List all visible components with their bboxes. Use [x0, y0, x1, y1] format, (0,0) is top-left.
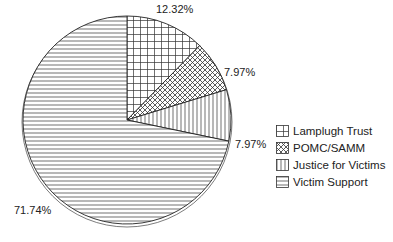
slice-label-lamplugh: 12.32% — [156, 3, 193, 15]
grid-pattern-swatch-icon — [276, 125, 289, 137]
legend-label: POMC/SAMM — [293, 142, 365, 154]
legend-label: Justice for Victims — [293, 159, 385, 171]
legend-label: Lamplugh Trust — [293, 125, 372, 137]
pie-chart — [0, 0, 393, 242]
legend-item-lamplugh: Lamplugh Trust — [276, 122, 385, 139]
vertical-lines-swatch-icon — [276, 159, 289, 171]
legend-label: Victim Support — [293, 176, 368, 188]
chart-legend: Lamplugh Trust POMC/SAMM Justice for Vic… — [276, 122, 385, 190]
slice-label-pomc: 7.97% — [224, 66, 255, 78]
slice-label-victim-support: 71.74% — [14, 204, 51, 216]
horizontal-lines-swatch-icon — [276, 176, 289, 188]
crosshatch-pattern-swatch-icon — [276, 142, 289, 154]
slice-label-justice: 7.97% — [235, 138, 266, 150]
pie-slices — [22, 16, 232, 227]
legend-item-justice: Justice for Victims — [276, 156, 385, 173]
legend-item-pomc: POMC/SAMM — [276, 139, 385, 156]
legend-item-victim-support: Victim Support — [276, 173, 385, 190]
